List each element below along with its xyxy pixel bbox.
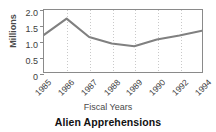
y-tick-label: 0 — [33, 73, 38, 82]
chart-title: Alien Apprehensions — [0, 116, 216, 128]
x-tick-label: 1986 — [51, 78, 76, 103]
data-line-series — [44, 10, 202, 72]
x-tick-label: 1990 — [143, 78, 168, 103]
x-tick-label: 1994 — [189, 78, 214, 103]
y-tick-label: 1.0 — [25, 41, 38, 50]
x-axis-tick-labels: 19851986198719881989199019921994 — [43, 74, 203, 104]
x-tick-label: 1989 — [120, 78, 145, 103]
y-axis-tick-labels: 2.01.51.00.50 — [16, 4, 38, 80]
x-tick-label: 1992 — [166, 78, 191, 103]
x-tick-label: 1988 — [97, 78, 122, 103]
plot-area — [43, 9, 203, 73]
y-tick-label: 0.5 — [25, 57, 38, 66]
y-tick-label: 1.5 — [25, 25, 38, 34]
x-tick-label: 1985 — [29, 78, 54, 103]
x-tick-label: 1987 — [74, 78, 99, 103]
y-tick-label: 2.0 — [25, 9, 38, 18]
chart-figure: Millions 2.01.51.00.50 19851986198719881… — [0, 0, 216, 132]
x-axis-title: Fiscal Years — [0, 102, 216, 112]
